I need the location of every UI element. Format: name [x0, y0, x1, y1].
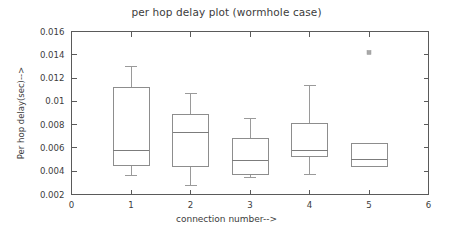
svg-text:0.016: 0.016 — [40, 27, 65, 37]
svg-text:0.014: 0.014 — [40, 50, 65, 60]
box-plot-figure: per hop delay plot (wormhole case) Per h… — [0, 0, 453, 234]
svg-text:4: 4 — [307, 200, 312, 210]
box-plot-item — [173, 93, 209, 185]
svg-text:0.006: 0.006 — [40, 143, 65, 153]
svg-text:0.008: 0.008 — [40, 120, 65, 130]
box-plot-item — [351, 50, 387, 166]
svg-text:0.002: 0.002 — [40, 190, 65, 200]
svg-text:0.01: 0.01 — [45, 96, 64, 106]
box-plot-item — [232, 119, 268, 177]
box-plot-item — [113, 66, 149, 175]
box-plot-item — [292, 85, 328, 175]
plot-frame — [72, 32, 429, 195]
svg-text:6: 6 — [426, 200, 431, 210]
box-series — [113, 50, 387, 185]
svg-text:0.004: 0.004 — [40, 166, 65, 176]
svg-text:0.012: 0.012 — [40, 73, 65, 83]
svg-text:3: 3 — [247, 200, 252, 210]
svg-text:1: 1 — [128, 200, 133, 210]
svg-text:5: 5 — [366, 200, 371, 210]
svg-text:2: 2 — [188, 200, 193, 210]
svg-text:0: 0 — [69, 200, 74, 210]
plot-area: 0.0020.0040.0060.0080.010.0120.0140.016 … — [0, 0, 453, 234]
